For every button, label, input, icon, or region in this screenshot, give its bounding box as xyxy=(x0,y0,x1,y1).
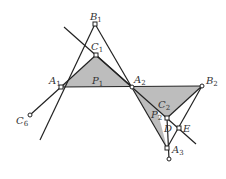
point-bottom xyxy=(167,157,171,161)
point-b2 xyxy=(200,84,204,88)
point-d xyxy=(165,116,169,120)
line-a1-c6 xyxy=(30,87,61,115)
label-a1: A1 xyxy=(48,75,61,88)
label-d: D xyxy=(163,123,172,134)
label-a3: A3 xyxy=(171,144,184,157)
point-e xyxy=(177,126,181,130)
label-e: E xyxy=(182,123,191,134)
label-c6: C6 xyxy=(16,115,29,128)
geometry-diagram: B1 C1 A1 P1 A2 B2 C2 P2 D E A3 C6 xyxy=(0,0,226,179)
point-c6 xyxy=(28,113,32,117)
point-c1 xyxy=(94,53,98,57)
point-a2 xyxy=(130,85,134,89)
point-a3 xyxy=(165,146,169,150)
label-a2: A2 xyxy=(133,74,146,87)
label-b2: B2 xyxy=(205,75,218,88)
